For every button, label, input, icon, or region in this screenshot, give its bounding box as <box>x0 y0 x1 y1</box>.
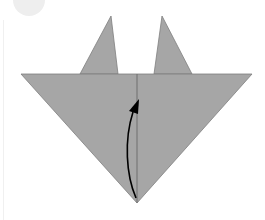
right-ear <box>154 16 192 74</box>
left-ear <box>80 16 118 74</box>
origami-diagram <box>0 0 265 220</box>
